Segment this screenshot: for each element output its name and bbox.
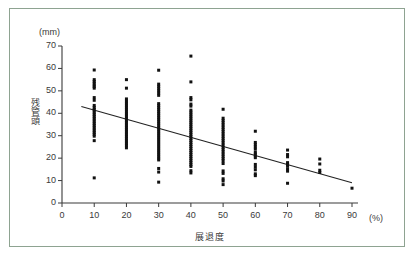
data-point (286, 170, 289, 173)
trend-line (81, 107, 352, 183)
data-point (93, 99, 96, 102)
data-point (93, 135, 96, 138)
data-point (222, 172, 225, 175)
y-tick-label: 0 (28, 197, 56, 207)
data-point (222, 180, 225, 183)
data-point (189, 105, 192, 108)
x-axis-title: 展退度 (170, 230, 250, 243)
data-point (125, 87, 128, 90)
x-tick-label: 20 (116, 210, 136, 220)
data-point (189, 55, 192, 58)
data-point (93, 96, 96, 99)
data-point (93, 68, 96, 71)
x-tick-label: 80 (310, 210, 330, 220)
y-axis-unit-label: (mm) (39, 27, 60, 37)
data-point (189, 165, 192, 168)
data-point (286, 155, 289, 158)
data-point (318, 171, 321, 174)
data-point (93, 139, 96, 142)
data-point (318, 158, 321, 161)
data-point (222, 159, 225, 162)
data-point (157, 167, 160, 170)
x-tick-label: 40 (181, 210, 201, 220)
data-point (254, 174, 257, 177)
data-point (157, 94, 160, 97)
data-point (157, 171, 160, 174)
y-tick-label: 10 (28, 175, 56, 185)
data-point (254, 166, 257, 169)
x-tick-label: 10 (84, 210, 104, 220)
data-point (254, 163, 257, 166)
data-point (318, 162, 321, 165)
x-tick-label: 0 (52, 210, 72, 220)
data-point (125, 78, 128, 81)
data-point-group (93, 55, 354, 190)
x-tick-label: 60 (245, 210, 265, 220)
data-point (286, 165, 289, 168)
x-axis-unit-label: (%) (369, 213, 383, 223)
data-point (93, 176, 96, 179)
data-point (222, 183, 225, 186)
chart-figure: (mm) (%) 残管頭 展退度 010203040506070 0102030… (0, 0, 415, 256)
data-point (254, 148, 257, 151)
data-point (254, 168, 257, 171)
y-tick-label: 30 (28, 130, 56, 140)
data-point (157, 69, 160, 72)
x-tick-label: 70 (278, 210, 298, 220)
x-tick-label: 90 (342, 210, 362, 220)
data-point (93, 87, 96, 90)
y-tick-label: 50 (28, 85, 56, 95)
data-point (286, 149, 289, 152)
data-point (157, 181, 160, 184)
data-point (286, 182, 289, 185)
data-point (222, 162, 225, 165)
y-tick-label: 40 (28, 107, 56, 117)
data-point (157, 158, 160, 161)
y-tick-label: 70 (28, 40, 56, 50)
data-point (254, 156, 257, 159)
data-point (189, 98, 192, 101)
data-point (222, 108, 225, 111)
data-point (189, 171, 192, 174)
y-tick-label: 20 (28, 152, 56, 162)
y-tick-label: 60 (28, 62, 56, 72)
data-point (351, 187, 354, 190)
x-tick-label: 50 (213, 210, 233, 220)
data-point (125, 146, 128, 149)
data-point (189, 80, 192, 83)
data-point (254, 130, 257, 133)
x-tick-label: 30 (149, 210, 169, 220)
